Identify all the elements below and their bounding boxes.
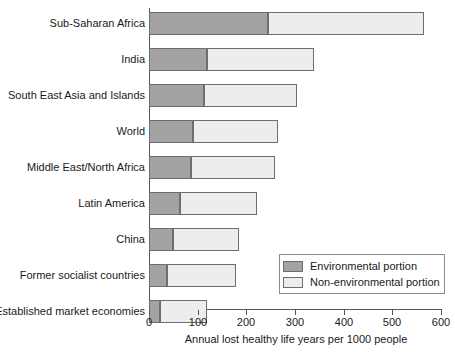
- x-axis-tick: [246, 310, 247, 315]
- legend-label-non-environmental: Non-environmental portion: [310, 276, 440, 289]
- x-axis-tick-label: 600: [421, 316, 455, 329]
- x-axis-tick: [149, 310, 150, 315]
- bar-segment-environmental: [149, 120, 193, 143]
- x-axis-tick-label: 300: [275, 316, 315, 329]
- bar-segment-non-environmental: [167, 264, 236, 287]
- stacked-bar-chart: Sub-Saharan AfricaIndiaSouth East Asia a…: [0, 0, 455, 352]
- bar-segment-environmental: [149, 48, 207, 71]
- x-axis-tick-label: 500: [372, 316, 412, 329]
- legend-swatch-environmental-icon: [283, 261, 303, 272]
- x-axis-tick: [344, 310, 345, 315]
- category-label: South East Asia and Islands: [8, 89, 145, 102]
- bar-segment-environmental: [149, 156, 191, 179]
- legend-item-environmental: Environmental portion: [283, 259, 440, 274]
- bar-segment-non-environmental: [193, 120, 278, 143]
- category-label: Sub-Saharan Africa: [50, 17, 145, 30]
- category-label: Latin America: [78, 197, 145, 210]
- bar-segment-environmental: [149, 12, 268, 35]
- category-label: India: [121, 53, 145, 66]
- x-axis-tick: [392, 310, 393, 315]
- x-axis-tick-label: 100: [178, 316, 218, 329]
- legend-swatch-non-environmental-icon: [283, 277, 303, 288]
- bar-segment-environmental: [149, 192, 180, 215]
- bar-segment-non-environmental: [268, 12, 424, 35]
- category-label: Established market economies: [0, 305, 145, 318]
- x-axis-title: Annual lost healthy life years per 1000 …: [150, 333, 442, 346]
- x-axis-tick-label: 200: [226, 316, 266, 329]
- x-axis-tick: [295, 310, 296, 315]
- x-axis-tick: [198, 310, 199, 315]
- category-label: China: [116, 233, 145, 246]
- category-label: Middle East/North Africa: [27, 161, 145, 174]
- x-axis-tick-label: 400: [324, 316, 364, 329]
- x-axis-tick: [441, 310, 442, 315]
- bar-segment-non-environmental: [204, 84, 297, 107]
- legend-label-environmental: Environmental portion: [310, 260, 417, 273]
- category-label: Former socialist countries: [20, 269, 145, 282]
- bar-segment-environmental: [149, 84, 204, 107]
- bar-segment-non-environmental: [180, 192, 257, 215]
- chart-legend: Environmental portion Non-environmental …: [279, 254, 445, 294]
- bar-segment-non-environmental: [207, 48, 314, 71]
- bar-segment-non-environmental: [191, 156, 275, 179]
- category-label: World: [116, 125, 145, 138]
- bar-segment-environmental: [149, 228, 173, 251]
- x-axis-tick-label: 0: [129, 316, 169, 329]
- legend-item-non-environmental: Non-environmental portion: [283, 275, 440, 290]
- bar-segment-environmental: [149, 264, 167, 287]
- bar-segment-non-environmental: [173, 228, 239, 251]
